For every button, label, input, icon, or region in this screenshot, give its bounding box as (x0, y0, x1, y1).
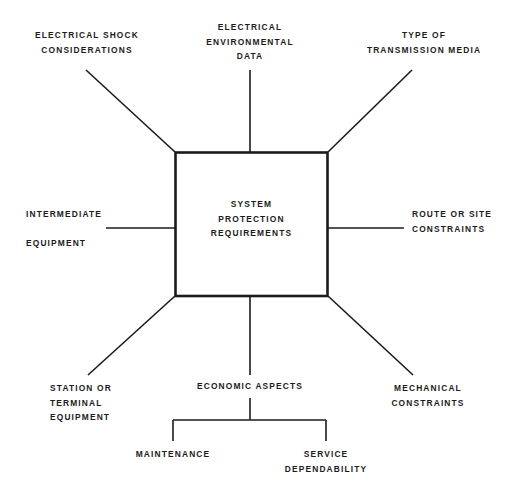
node-intermediate-equipment: INTERMEDIATE EQUIPMENT (26, 207, 136, 251)
node-type-of-transmission-media: TYPE OF TRANSMISSION MEDIA (340, 28, 508, 57)
edge-electrical-shock-considerations (86, 70, 175, 152)
center-node-label: SYSTEM PROTECTION REQUIREMENTS (176, 197, 327, 241)
edge-type-of-transmission-media (328, 70, 412, 152)
node-electrical-environmental-data: ELECTRICAL ENVIRONMENTAL DATA (186, 20, 314, 64)
node-maintenance: MAINTENANCE (113, 447, 233, 462)
node-mechanical-constraints: MECHANICAL CONSTRAINTS (372, 381, 484, 410)
node-economic-aspects: ECONOMIC ASPECTS (186, 379, 314, 394)
node-electrical-shock-considerations: ELECTRICAL SHOCK CONSIDERATIONS (12, 28, 162, 57)
edge-mechanical-constraints (328, 296, 413, 375)
edge-station-or-terminal-equipment (88, 296, 175, 375)
node-service-dependability: SERVICE DEPENDABILITY (266, 447, 386, 476)
node-route-or-site-constraints: ROUTE OR SITE CONSTRAINTS (412, 207, 520, 236)
node-station-or-terminal-equipment: STATION OR TERMINAL EQUIPMENT (50, 381, 160, 425)
diagram-canvas: SYSTEM PROTECTION REQUIREMENTS ELECTRICA… (0, 0, 522, 494)
